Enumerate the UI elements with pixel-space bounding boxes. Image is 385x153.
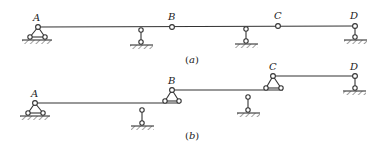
- node-label-b-A: A: [30, 88, 38, 99]
- figure-a: [22, 24, 367, 49]
- node-label-b-B: B: [167, 75, 175, 86]
- node-label-a-D: D: [349, 10, 358, 21]
- caption-a: (a): [185, 54, 199, 65]
- link-support-b-D: [343, 74, 366, 95]
- link-support-a-1: [130, 28, 153, 49]
- link-support-a-2: [235, 27, 258, 48]
- caption-b: (b): [185, 130, 199, 141]
- figure-b: [20, 74, 366, 130]
- hinge-b-C: [271, 74, 276, 79]
- node-label-b-C: C: [269, 61, 277, 72]
- node-label-a-A: A: [32, 12, 40, 23]
- beam-a: [38, 26, 355, 27]
- hinge-b-B: [170, 88, 175, 93]
- hinge-a-B: [170, 25, 175, 30]
- link-support-b-1: [131, 108, 154, 130]
- hinge-a-C: [276, 24, 281, 29]
- node-label-b-D: D: [349, 61, 358, 72]
- node-label-a-C: C: [274, 10, 282, 21]
- structure-diagram: A B C D (a): [0, 0, 385, 153]
- link-support-a-D: [344, 24, 367, 44]
- node-label-a-B: B: [167, 11, 175, 22]
- link-support-b-2: [237, 95, 260, 117]
